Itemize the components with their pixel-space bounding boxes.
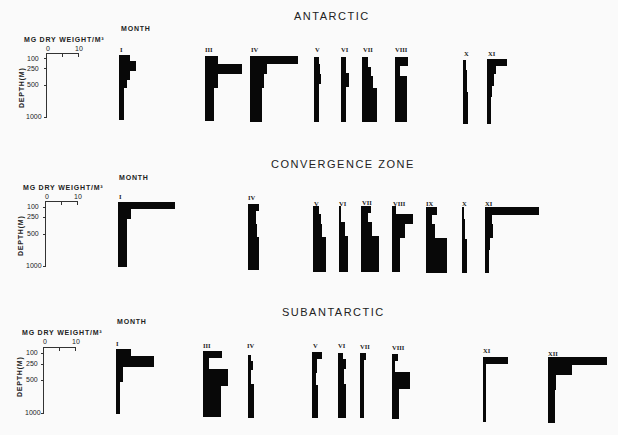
month-label: I	[116, 340, 119, 347]
month-label: XI	[483, 347, 490, 354]
panel-title: SUBANTARCTIC	[282, 306, 385, 318]
x-axis-tick	[59, 347, 60, 351]
y-tick-500: 500	[26, 376, 38, 383]
unit-label: MG DRY WEIGHT/M³	[22, 329, 102, 336]
y-tick-mark	[41, 364, 44, 365]
x-tick-10: 10	[72, 338, 80, 345]
panel-subantarctic: SUBANTARCTIC MONTH MG DRY WEIGHT/M³ 0 10…	[0, 0, 618, 435]
y-tick-mark	[41, 380, 44, 381]
y-tick-mark	[41, 413, 44, 414]
y-tick-1000: 1000	[25, 409, 41, 416]
month-heading: MONTH	[117, 318, 147, 325]
month-label: XII	[548, 350, 558, 357]
x-axis-tick	[75, 347, 76, 351]
month-label: III	[203, 342, 211, 349]
y-tick-250: 250	[26, 360, 38, 367]
month-label: VIII	[392, 344, 404, 351]
month-label: VII	[360, 343, 370, 350]
month-label: V	[313, 342, 318, 349]
x-tick-0: 0	[43, 338, 47, 345]
month-label: VI	[338, 342, 345, 349]
y-tick-mark	[41, 353, 44, 354]
month-label: IV	[247, 342, 254, 349]
y-tick-100: 100	[26, 349, 38, 356]
depth-axis-label: DEPTH(M)	[16, 356, 23, 397]
